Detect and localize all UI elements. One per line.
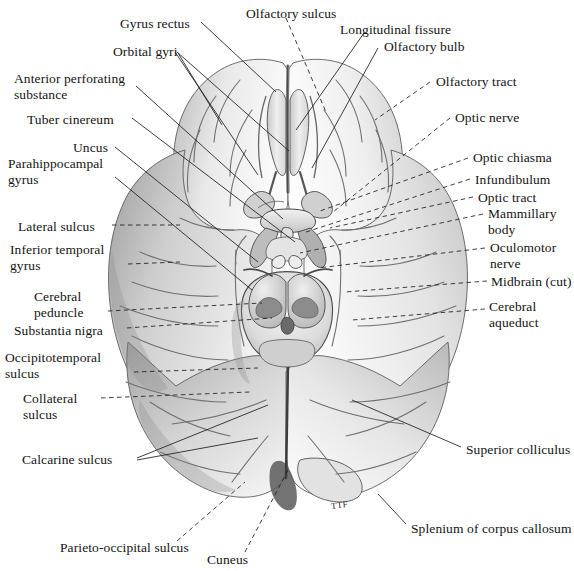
cerebral-aqueduct	[281, 317, 294, 334]
leader-splenium	[378, 494, 406, 524]
tuber-cinereum	[266, 237, 307, 261]
label-superior-colliculus: Superior colliculus	[466, 442, 570, 458]
label-cuneus: Cuneus	[207, 552, 248, 568]
label-calcarine-sulcus: Calcarine sulcus	[22, 452, 112, 468]
label-cerebral-aqueduct: Cerebral aqueduct	[489, 299, 539, 330]
label-optic-chiasma: Optic chiasma	[473, 150, 552, 166]
label-olfactory-tract: Olfactory tract	[436, 74, 517, 90]
label-midbrain-cut: Midbrain (cut)	[491, 274, 572, 290]
label-olfactory-sulcus: Olfactory sulcus	[246, 6, 336, 22]
label-lateral-sulcus: Lateral sulcus	[18, 219, 95, 235]
label-substantia-nigra: Substantia nigra	[14, 323, 103, 339]
label-splenium-of-corpus-callosum: Splenium of corpus callosum	[411, 521, 572, 537]
label-parieto-occipital-sulcus: Parieto-occipital sulcus	[60, 540, 189, 556]
label-longitudinal-fissure: Longitudinal fissure	[340, 22, 451, 38]
anatomy-figure-page: Gyrus rectusOlfactory sulcusLongitudinal…	[0, 0, 574, 571]
label-orbital-gyri: Orbital gyri	[113, 44, 178, 60]
superior-colliculus-region	[259, 340, 315, 368]
label-cerebral-peduncle: Cerebral peduncle	[34, 289, 84, 320]
label-mammillary-body: Mammillary body	[488, 206, 557, 237]
label-gyrus-rectus: Gyrus rectus	[120, 16, 190, 32]
label-optic-tract: Optic tract	[478, 190, 536, 206]
label-inferior-temporal-gyrus: Inferior temporal gyrus	[10, 242, 104, 273]
label-infundibulum: Infundibulum	[475, 172, 550, 188]
label-collateral-sulcus: Collateral sulcus	[23, 391, 77, 422]
longitudinal-fissure-line	[287, 66, 288, 192]
label-parahippocampal-gyrus: Parahippocampal gyrus	[8, 156, 103, 187]
label-oculomotor-nerve: Oculomotor nerve	[490, 240, 556, 271]
label-olfactory-bulb: Olfactory bulb	[384, 39, 465, 55]
brain-drawing	[109, 59, 468, 510]
label-optic-nerve: Optic nerve	[455, 110, 519, 126]
label-occipitotemporal-sulcus: Occipitotemporal sulcus	[5, 350, 101, 381]
label-uncus: Uncus	[73, 140, 108, 156]
label-tuber-cinereum: Tuber cinereum	[27, 112, 114, 128]
label-anterior-perforating-substance: Anterior perforating substance	[14, 71, 125, 102]
